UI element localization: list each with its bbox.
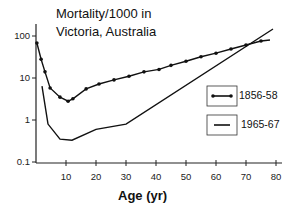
- data-point-marker: [199, 55, 203, 59]
- x-tick-label: 30: [114, 171, 138, 182]
- x-tick-label: 50: [174, 171, 198, 182]
- data-point-marker: [48, 86, 52, 90]
- data-point-marker: [184, 59, 188, 63]
- data-point-marker: [127, 74, 131, 78]
- y-tick-label: 1: [2, 114, 30, 125]
- chart-title-line-2: Victoria, Australia: [56, 24, 156, 39]
- data-point-marker: [214, 51, 218, 55]
- data-point-marker: [35, 41, 39, 45]
- series-1965-67-line: [42, 29, 273, 140]
- legend-label-1965-67: 1965-67: [241, 118, 280, 130]
- data-point-marker: [244, 43, 248, 47]
- x-tick-label: 40: [144, 171, 168, 182]
- data-point-marker: [169, 64, 173, 68]
- data-point-marker: [71, 97, 75, 101]
- x-tick-label: 10: [54, 171, 78, 182]
- data-point-marker: [229, 47, 233, 51]
- data-point-marker: [259, 39, 263, 43]
- data-point-marker: [84, 87, 88, 91]
- data-point-marker: [112, 78, 116, 82]
- data-point-marker: [157, 68, 161, 72]
- legend-dot-icon: [229, 94, 233, 98]
- data-point-marker: [43, 70, 47, 74]
- data-point-marker: [142, 70, 146, 74]
- x-tick-label: 70: [234, 171, 258, 182]
- data-point-marker: [66, 99, 70, 103]
- legend-dot-icon: [211, 94, 215, 98]
- y-tick-label: 10: [2, 72, 30, 83]
- chart-title-line-1: Mortality/1000 in: [56, 6, 151, 21]
- y-tick-label: 0.1: [2, 156, 30, 167]
- data-point-marker: [97, 82, 101, 86]
- x-tick-label: 80: [264, 171, 288, 182]
- x-axis-label: Age (yr): [118, 188, 167, 203]
- legend-label-1856-58: 1856-58: [239, 89, 278, 101]
- data-point-marker: [58, 95, 62, 99]
- data-point-marker: [39, 57, 43, 61]
- x-tick-label: 60: [204, 171, 228, 182]
- y-tick-label: 100: [2, 30, 30, 41]
- x-tick-label: 20: [84, 171, 108, 182]
